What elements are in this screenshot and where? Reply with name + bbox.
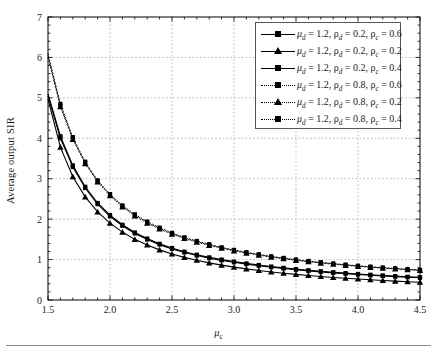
x-axis-label: μc — [0, 327, 437, 341]
series-marker-square — [195, 253, 199, 257]
x-tick-label: 2.0 — [104, 304, 117, 315]
x-tick-label: 4.5 — [414, 304, 427, 315]
series-marker-triangle — [82, 161, 88, 167]
x-tick-label: 4.0 — [352, 304, 365, 315]
legend-item-label: μd = 1.2, ρd = 0.2, ρc = 0.6 — [295, 28, 402, 42]
series-marker-triangle — [144, 242, 150, 248]
series-marker-triangle — [82, 194, 88, 200]
legend-key-solid-square-icon — [261, 63, 295, 74]
legend-key-solid-square-icon — [261, 29, 295, 40]
y-tick-label: 4 — [37, 133, 42, 144]
series-marker-square — [207, 256, 211, 260]
y-tick-label: 6 — [37, 52, 42, 63]
y-axis-label: Average output SIR — [2, 75, 18, 245]
y-tick-label: 2 — [37, 214, 42, 225]
series-marker-square — [244, 262, 248, 266]
series-marker-square — [257, 264, 261, 268]
y-tick-label: 5 — [37, 92, 42, 103]
legend-key-solid-triangle-icon — [261, 46, 295, 57]
legend-item-label: μd = 1.2, ρd = 0.8, ρc = 0.2 — [295, 96, 402, 110]
y-tick-label: 3 — [37, 173, 42, 184]
legend-key-dotted-triangle-icon — [261, 97, 295, 108]
x-tick-label: 3.5 — [290, 304, 303, 315]
chart-legend: μd = 1.2, ρd = 0.2, ρc = 0.6μd = 1.2, ρd… — [255, 22, 401, 129]
series-marker-square — [71, 165, 75, 169]
series-marker-triangle — [218, 245, 224, 251]
series-marker-square — [220, 258, 224, 262]
y-tick-label: 0 — [37, 295, 42, 306]
series-marker-square — [108, 214, 112, 218]
series-marker-triangle — [119, 229, 125, 235]
legend-item[interactable]: μd = 1.2, ρd = 0.2, ρc = 0.4 — [256, 60, 400, 77]
legend-item-label: μd = 1.2, ρd = 0.2, ρc = 0.4 — [295, 62, 402, 76]
legend-key-dotted-square-icon — [261, 80, 295, 91]
series-marker-square — [83, 186, 87, 190]
series-marker-triangle — [132, 213, 138, 219]
legend-key-dotted-square-icon — [261, 114, 295, 125]
series-marker-square — [232, 260, 236, 264]
footer-rule — [6, 345, 431, 346]
series-marker-triangle — [70, 173, 76, 179]
legend-item[interactable]: μd = 1.2, ρd = 0.8, ρc = 0.2 — [256, 94, 400, 111]
y-tick-label: 1 — [37, 254, 42, 265]
series-marker-square — [133, 231, 137, 235]
legend-item[interactable]: μd = 1.2, ρd = 0.8, ρc = 0.4 — [256, 111, 400, 128]
legend-item[interactable]: μd = 1.2, ρd = 0.8, ρc = 0.6 — [256, 77, 400, 94]
series-marker-triangle — [94, 179, 100, 185]
legend-item[interactable]: μd = 1.2, ρd = 0.2, ρc = 0.6 — [256, 26, 400, 43]
legend-item-label: μd = 1.2, ρd = 0.8, ρc = 0.6 — [295, 79, 402, 93]
series-marker-square — [96, 202, 100, 206]
y-axis-label-text: Average output SIR — [5, 117, 16, 204]
series-marker-triangle — [132, 236, 138, 242]
legend-item-label: μd = 1.2, ρd = 0.8, ρc = 0.4 — [295, 113, 402, 127]
x-tick-label: 2.5 — [166, 304, 179, 315]
series-marker-triangle — [57, 104, 63, 110]
series-marker-square — [269, 265, 273, 269]
series-marker-square — [182, 250, 186, 254]
series-marker-triangle — [107, 192, 113, 198]
series-marker-square — [120, 224, 124, 228]
series-marker-square — [170, 247, 174, 251]
x-tick-label: 3.0 — [228, 304, 241, 315]
legend-item[interactable]: μd = 1.2, ρd = 0.2, ρc = 0.2 — [256, 43, 400, 60]
x-axis-label-subscript: c — [219, 332, 222, 341]
x-tick-label: 1.5 — [42, 304, 55, 315]
series-marker-square — [158, 243, 162, 247]
series-marker-square — [282, 266, 286, 270]
figure-container: 1.52.02.53.03.54.04.501234567 Average ou… — [0, 0, 437, 353]
series-marker-square — [294, 268, 298, 272]
series-marker-triangle — [70, 136, 76, 142]
legend-item-label: μd = 1.2, ρd = 0.2, ρc = 0.2 — [295, 45, 402, 59]
y-tick-label: 7 — [37, 12, 42, 23]
series-marker-square — [145, 237, 149, 241]
